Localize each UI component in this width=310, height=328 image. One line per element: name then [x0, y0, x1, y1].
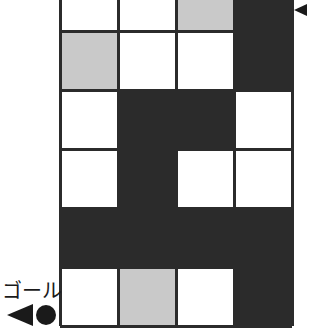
maze-cell-r1-c4	[234, 0, 292, 31]
maze-cell-r1-c2	[118, 0, 176, 31]
maze-cell-r6-c1	[60, 267, 118, 326]
maze-cell-r6-c4	[234, 267, 292, 326]
maze-cell-r6-c2	[118, 267, 176, 326]
grid-line-vertical-1	[117, 0, 120, 326]
maze-cell-r5-c2	[118, 208, 176, 267]
maze-cell-r4-c4	[234, 149, 292, 208]
maze-cell-r2-c1	[60, 31, 118, 90]
maze-cell-r4-c1	[60, 149, 118, 208]
grid-line-vertical-3	[233, 0, 236, 326]
maze-cell-r3-c2	[118, 90, 176, 149]
entry-pointer	[294, 3, 308, 17]
maze-cell-r2-c2	[118, 31, 176, 90]
maze-cell-r6-c3	[176, 267, 234, 326]
grid-line-vertical-2	[175, 0, 178, 326]
maze-cell-r1-c1	[60, 0, 118, 31]
maze-cell-r3-c4	[234, 90, 292, 149]
grid-line-vertical-0	[59, 0, 62, 326]
goal-label: ゴール	[2, 281, 62, 301]
circle-icon	[36, 305, 56, 325]
maze-cell-r5-c3	[176, 208, 234, 267]
maze-cell-r2-c4	[234, 31, 292, 90]
goal-direction-marker	[6, 304, 58, 326]
maze-cell-r5-c1	[60, 208, 118, 267]
maze-cell-r4-c2	[118, 149, 176, 208]
left-triangle-icon	[7, 304, 33, 326]
maze-cell-r3-c3	[176, 90, 234, 149]
maze-cell-r5-c4	[234, 208, 292, 267]
grid-line-vertical-4	[291, 0, 294, 326]
goal-marker-group: ゴール	[2, 281, 60, 327]
maze-cell-r3-c1	[60, 90, 118, 149]
maze-cell-r4-c3	[176, 149, 234, 208]
left-triangle-icon	[294, 4, 307, 16]
maze-cell-r1-c3	[176, 0, 234, 31]
maze-grid	[60, 0, 291, 328]
maze-cell-r2-c3	[176, 31, 234, 90]
